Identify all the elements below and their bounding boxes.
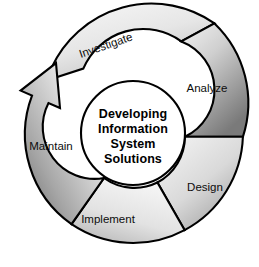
segment-label-analyze: Analyze bbox=[187, 82, 228, 94]
center-title-line-1: Developing bbox=[99, 107, 167, 121]
segment-label-design: Design bbox=[187, 181, 223, 193]
segment-analyze[interactable] bbox=[181, 23, 248, 136]
center-title-line-2: Information bbox=[98, 122, 168, 136]
segment-label-maintain: Maintain bbox=[29, 140, 72, 152]
segment-label-implement: Implement bbox=[81, 213, 135, 225]
process-cycle-diagram: Investigate Analyze Design Implement Mai… bbox=[0, 0, 259, 267]
center-title-line-4: Solutions bbox=[104, 152, 162, 166]
center-title-line-3: System bbox=[110, 137, 155, 151]
cycle-svg-canvas: Investigate Analyze Design Implement Mai… bbox=[0, 0, 259, 267]
